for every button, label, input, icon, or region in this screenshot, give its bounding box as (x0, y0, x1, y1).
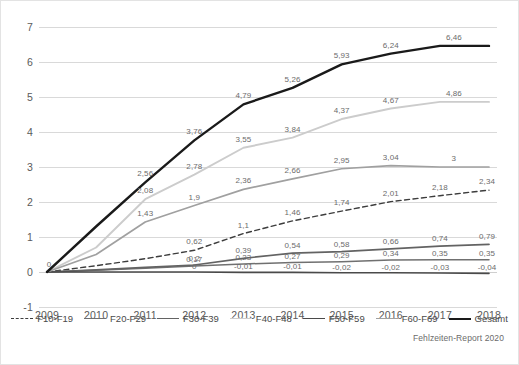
legend-item-f40-f48[interactable]: F40-F48 (230, 313, 292, 324)
y-tick-label: 1 (9, 231, 33, 243)
data-label: -0,02 (381, 262, 400, 271)
data-label: 0,39 (235, 246, 251, 255)
data-label: 0,35 (432, 248, 448, 257)
data-label: -0,03 (431, 263, 450, 272)
y-tick-label: 2 (9, 196, 33, 208)
data-label: 3,04 (383, 152, 399, 161)
data-label: 0,35 (479, 248, 495, 257)
series-lines (39, 27, 497, 307)
data-label: 2,56 (137, 169, 153, 178)
data-label: 0,54 (285, 241, 301, 250)
data-label: 2,78 (186, 161, 202, 170)
line-gesamt (47, 46, 489, 272)
source-note: Fehlzeiten-Report 2020 (413, 333, 504, 343)
legend-swatch-icon (376, 318, 398, 319)
gridline--1 (39, 307, 497, 308)
data-label: 0 (47, 260, 52, 269)
data-label: 2,01 (383, 188, 399, 197)
legend-swatch-icon (84, 318, 106, 319)
data-label: 5,93 (334, 51, 350, 60)
data-label: 4,86 (446, 88, 462, 97)
y-tick-label: 3 (9, 161, 33, 173)
legend-item-f30-f39[interactable]: F30-F39 (157, 313, 219, 324)
data-label: 0,66 (383, 236, 399, 245)
data-label: 1,74 (334, 198, 350, 207)
data-label: 0,27 (285, 251, 301, 260)
data-label: 3,55 (235, 134, 251, 143)
data-label: 0,58 (334, 239, 350, 248)
data-label: 0,74 (432, 234, 448, 243)
data-label: 3,84 (285, 124, 301, 133)
data-label: 5,26 (285, 74, 301, 83)
data-label: 0,29 (334, 250, 350, 259)
line-f30-f39 (47, 244, 489, 272)
data-label: 1,46 (285, 207, 301, 216)
legend-label: F40-F48 (256, 313, 292, 324)
y-tick-label: 5 (9, 91, 33, 103)
y-tick-label: 7 (9, 21, 33, 33)
chart-legend: F10-F19F20-F29F30-F39F40-F48F50-F59F60-F… (1, 313, 518, 324)
data-label: 0,34 (383, 249, 399, 258)
data-label: -0,02 (332, 262, 351, 271)
data-label: 0,79 (479, 232, 495, 241)
data-label: 4,67 (383, 95, 399, 104)
chart-card: -101234567 0,621,11,461,742,012,182,340,… (0, 0, 519, 365)
data-label: 0,62 (186, 237, 202, 246)
data-label: 2,95 (334, 155, 350, 164)
data-label: 2,34 (479, 177, 495, 186)
line-f50-f59 (47, 272, 489, 273)
legend-label: F50-F59 (329, 313, 365, 324)
line-f20-f29 (47, 260, 489, 272)
data-label: 4,79 (235, 91, 251, 100)
data-label: 1,43 (137, 208, 153, 217)
y-tick-label: 0 (9, 266, 33, 278)
legend-item-gesamt[interactable]: Gesamt (449, 313, 508, 324)
legend-swatch-icon (449, 318, 471, 320)
data-label: 6,46 (446, 32, 462, 41)
data-label: 1,9 (189, 192, 200, 201)
legend-item-f10-f19[interactable]: F10-F19 (11, 313, 73, 324)
data-label: 2,36 (235, 176, 251, 185)
legend-label: Gesamt (475, 313, 508, 324)
data-label: 3,76 (186, 127, 202, 136)
legend-swatch-icon (303, 318, 325, 319)
legend-swatch-icon (11, 318, 33, 319)
data-label: 2,08 (137, 186, 153, 195)
data-label: 4,37 (334, 106, 350, 115)
legend-label: F10-F19 (37, 313, 73, 324)
legend-item-f60-f69[interactable]: F60-F69 (376, 313, 438, 324)
y-tick-label: 4 (9, 126, 33, 138)
legend-label: F30-F39 (183, 313, 219, 324)
legend-swatch-icon (157, 318, 179, 319)
legend-item-f50-f59[interactable]: F50-F59 (303, 313, 365, 324)
data-label: -0,01 (283, 262, 302, 271)
data-label: 3 (452, 154, 457, 163)
data-label: 0 (192, 262, 197, 271)
legend-swatch-icon (230, 318, 252, 319)
legend-item-f20-f29[interactable]: F20-F29 (84, 313, 146, 324)
legend-label: F60-F69 (402, 313, 438, 324)
legend-label: F20-F29 (110, 313, 146, 324)
data-label: 2,18 (432, 182, 448, 191)
data-label: 1,1 (238, 220, 249, 229)
data-label: -0,01 (234, 262, 253, 271)
data-label: 6,24 (383, 40, 399, 49)
data-label: 2,66 (285, 165, 301, 174)
plot-area: -101234567 0,621,11,461,742,012,182,340,… (39, 27, 497, 307)
y-tick-label: 6 (9, 56, 33, 68)
data-label: -0,04 (478, 263, 497, 272)
